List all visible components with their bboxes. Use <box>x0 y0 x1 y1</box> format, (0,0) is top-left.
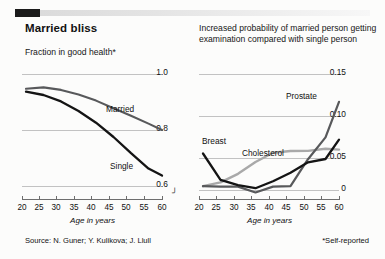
xtick-left-35 <box>74 196 75 199</box>
xaxis-title-left: Age in years <box>40 216 145 225</box>
xlabel-left-55: 55 <box>135 203 153 212</box>
xlabel-left-60: 60 <box>153 203 171 212</box>
axis-break-icon: ╯ <box>172 188 177 198</box>
xtick-right-20 <box>199 196 200 199</box>
left-chart-curves <box>22 74 162 186</box>
xlabel-right-55: 55 <box>312 203 330 212</box>
series-married-line <box>26 87 162 130</box>
series-single-line <box>26 92 162 176</box>
xlabel-right-40: 40 <box>260 203 278 212</box>
xlabel-left-30: 30 <box>47 203 65 212</box>
xtick-left-60 <box>162 196 163 199</box>
xtick-right-50 <box>304 196 305 199</box>
xlabel-right-60: 60 <box>330 203 348 212</box>
series-label-single: Single <box>110 161 133 171</box>
xlabel-left-20: 20 <box>13 203 31 212</box>
xlabel-right-35: 35 <box>242 203 260 212</box>
xaxis-left <box>22 199 163 200</box>
xlabel-right-20: 20 <box>190 203 208 212</box>
right-chart-curves <box>199 74 339 196</box>
left-chart: 1.0 0.8 0.6 Married Single 20 25 30 35 4… <box>0 0 195 235</box>
xtick-right-40 <box>269 196 270 199</box>
xtick-left-25 <box>39 196 40 199</box>
xtick-right-45 <box>286 196 287 199</box>
xaxis-title-right: Age in years <box>217 216 322 225</box>
right-chart: 0.15 0.10 0.05 0 Breast Prostate Cholest… <box>190 0 385 235</box>
xtick-left-45 <box>109 196 110 199</box>
xlabel-left-45: 45 <box>100 203 118 212</box>
xlabel-right-25: 25 <box>207 203 225 212</box>
series-label-prostate: Prostate <box>286 91 317 101</box>
source-citation: Source: N. Guner; Y. Kulikova; J. Llull <box>25 236 151 245</box>
xtick-left-20 <box>22 196 23 199</box>
xlabel-left-40: 40 <box>82 203 100 212</box>
xtick-left-40 <box>91 196 92 199</box>
xtick-left-55 <box>144 196 145 199</box>
xtick-right-60 <box>339 196 340 199</box>
xlabel-left-50: 50 <box>117 203 135 212</box>
xtick-right-35 <box>251 196 252 199</box>
xtick-left-30 <box>56 196 57 199</box>
xlabel-left-25: 25 <box>30 203 48 212</box>
series-label-cholesterol: Cholesterol <box>242 148 284 158</box>
footnote-self-reported: *Self-reported <box>322 236 369 245</box>
xtick-right-55 <box>321 196 322 199</box>
figure-sheet: Married bliss Fraction in good health* I… <box>0 0 385 259</box>
xtick-right-30 <box>234 196 235 199</box>
xlabel-right-45: 45 <box>277 203 295 212</box>
xlabel-left-35: 35 <box>65 203 83 212</box>
series-label-married: Married <box>106 104 134 114</box>
series-label-breast: Breast <box>202 136 226 146</box>
xlabel-right-30: 30 <box>225 203 243 212</box>
xlabel-right-50: 50 <box>295 203 313 212</box>
xtick-right-25 <box>216 196 217 199</box>
xaxis-right <box>199 199 340 200</box>
xtick-left-50 <box>126 196 127 199</box>
